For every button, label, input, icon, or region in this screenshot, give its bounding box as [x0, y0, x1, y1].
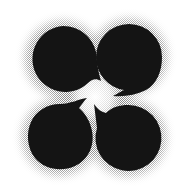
four-tomoe-emblem [0, 0, 190, 189]
emblem-image [0, 0, 190, 189]
